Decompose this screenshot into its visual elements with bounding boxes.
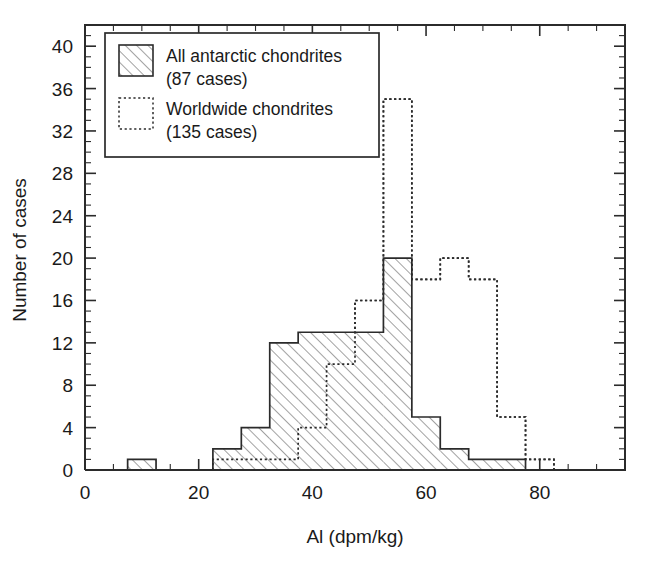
y-tick-label: 24 [52,206,74,227]
legend-label-worldwide: Worldwide chondrites [166,99,333,119]
y-tick-label: 4 [62,418,73,439]
y-tick-label: 16 [52,290,73,311]
antarctic-bar-fill [440,449,468,470]
antarctic-bar-fill [412,417,440,470]
y-tick-label: 36 [52,79,73,100]
y-tick-label: 32 [52,121,73,142]
legend-sublabel-worldwide: (135 cases) [166,122,257,142]
y-tick-label: 8 [62,375,73,396]
x-tick-label: 60 [415,482,436,503]
antarctic-bar-fill [469,459,497,470]
x-tick-label: 80 [529,482,550,503]
y-axis-title: Number of cases [9,178,30,322]
antarctic-bar-fill [497,459,525,470]
y-tick-label: 0 [62,460,73,481]
y-tick-label: 20 [52,248,73,269]
antarctic-bar-fill [270,343,298,470]
x-tick-label: 20 [188,482,209,503]
legend-swatch-worldwide [119,98,153,129]
legend-label-antarctic: All antarctic chondrites [166,46,342,66]
chart-svg: 0481216202428323640 020406080 Al (dpm/kg… [0,0,648,573]
antarctic-bar-fill [327,332,355,470]
chart-legend: All antarctic chondrites (87 cases) Worl… [105,33,379,157]
y-tick-label: 28 [52,163,73,184]
antarctic-bar-fill [383,258,411,470]
antarctic-bar-fill [298,332,326,470]
legend-swatch-antarctic [119,45,153,76]
antarctic-bar-fill [241,428,269,470]
x-tick-label: 40 [302,482,323,503]
x-axis-title: Al (dpm/kg) [306,526,403,547]
x-tick-label: 0 [80,482,91,503]
antarctic-bar-fill [128,459,156,470]
antarctic-bar-fill [355,332,383,470]
y-tick-label: 40 [52,36,73,57]
legend-sublabel-antarctic: (87 cases) [166,69,248,89]
y-tick-label: 12 [52,333,73,354]
histogram-figure: 0481216202428323640 020406080 Al (dpm/kg… [0,0,648,573]
